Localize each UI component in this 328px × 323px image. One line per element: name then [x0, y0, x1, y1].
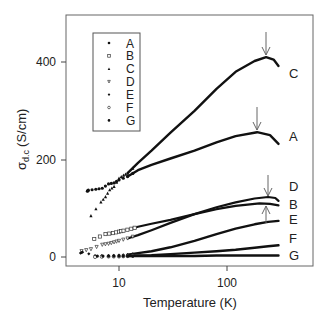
- series-e: [79, 221, 279, 257]
- x-tick-label-100: 100: [217, 276, 237, 290]
- y-tick-label-200: 200: [36, 153, 56, 167]
- legend-label: B: [126, 49, 134, 63]
- y-axis-title: σd.c(S/cm): [14, 109, 31, 170]
- series-g: [96, 254, 279, 257]
- x-axis: [119, 266, 227, 271]
- x-axis-title: Temperature (K): [143, 295, 237, 310]
- series-label-d: D: [289, 179, 298, 194]
- series-label-b: B: [289, 197, 298, 212]
- series-b: [93, 203, 279, 240]
- y-axis: [61, 62, 66, 257]
- legend-marker-icon: [108, 42, 111, 45]
- series-label-f: F: [289, 231, 297, 246]
- series-a: [86, 132, 279, 193]
- y-tick-label-400: 400: [36, 55, 56, 69]
- legend-label: C: [126, 62, 135, 76]
- series-label-c: C: [289, 66, 298, 81]
- x-tick-label-10: 10: [112, 276, 126, 290]
- legend-label: D: [126, 75, 135, 89]
- svg-text:σd.c(S/cm): σd.c(S/cm): [14, 109, 31, 170]
- legend-label: F: [126, 101, 133, 115]
- y-tick-label-0: 0: [49, 250, 56, 264]
- series-label-a: A: [289, 129, 298, 144]
- legend-label: G: [126, 114, 135, 128]
- legend-marker-icon: [108, 119, 111, 122]
- legend-label: E: [126, 88, 134, 102]
- series-label-e: E: [289, 212, 298, 227]
- arrow-down-icon-a: [253, 107, 261, 130]
- legend-label: A: [126, 37, 134, 51]
- arrow-down-icon-d: [264, 175, 272, 196]
- legend-marker-icon: [108, 106, 111, 109]
- arrow-up-icon-e: [262, 206, 270, 223]
- series-label-g: G: [289, 248, 299, 263]
- arrow-down-icon-c: [262, 32, 270, 55]
- legend-marker-icon: [108, 55, 111, 58]
- legend: ABCDEFG: [93, 33, 140, 131]
- conductivity-vs-temperature-chart: 0 200 400 10 100 Temperature (K) σd.c(S/…: [0, 0, 328, 323]
